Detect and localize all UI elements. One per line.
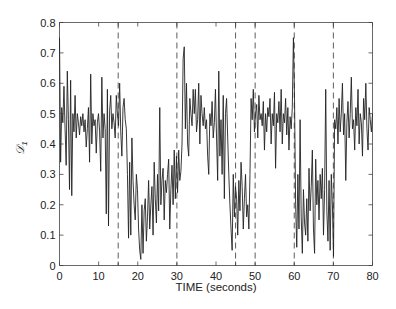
y-tick-label: 0.2 xyxy=(40,199,55,211)
x-tick-label: 40 xyxy=(210,270,222,282)
y-axis-title: 𝒟1 xyxy=(14,141,29,154)
y-tick-label: 0.8 xyxy=(40,17,55,29)
plot-area: 01020304050607080 00.10.20.30.40.50.60.7… xyxy=(40,17,378,282)
event-markers xyxy=(118,23,333,266)
y-tick-label: 0.4 xyxy=(40,138,55,150)
x-tick-label: 60 xyxy=(288,270,300,282)
x-tick-label: 30 xyxy=(171,270,183,282)
x-tick-label: 10 xyxy=(93,270,105,282)
x-tick-label: 70 xyxy=(327,270,339,282)
svg-text:𝒟1: 𝒟1 xyxy=(14,141,29,154)
y-tick-label: 0.6 xyxy=(40,77,55,89)
x-axis-title: TIME (seconds) xyxy=(175,281,256,293)
y-tick-label: 0.7 xyxy=(40,47,55,59)
y-axis-title-subscript: 1 xyxy=(20,141,29,145)
signal-series-d1 xyxy=(60,38,373,260)
x-tick-label: 80 xyxy=(366,270,378,282)
y-tick-label: 0.1 xyxy=(40,229,55,241)
line-chart: 01020304050607080 00.10.20.30.40.50.60.7… xyxy=(0,0,396,309)
y-tick-label: 0.3 xyxy=(40,168,55,180)
y-tick-label: 0.5 xyxy=(40,108,55,120)
x-tick-label: 0 xyxy=(56,270,62,282)
x-tick-label: 50 xyxy=(249,270,261,282)
x-tick-label: 20 xyxy=(132,270,144,282)
y-tick-label: 0 xyxy=(49,260,55,272)
